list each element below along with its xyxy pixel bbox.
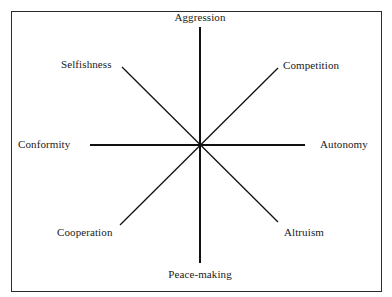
axis-label-selfishness: Selfishness [61, 58, 112, 71]
axis-label-conformity: Conformity [18, 138, 70, 151]
axis-label-competition: Competition [283, 59, 339, 72]
axis-line-competition-cooperation [120, 68, 278, 225]
axis-label-cooperation: Cooperation [57, 226, 112, 239]
diagram-canvas: Aggression Competition Autonomy Altruism… [0, 0, 392, 297]
axis-label-aggression: Aggression [174, 11, 225, 24]
axis-label-peace-making: Peace-making [168, 268, 232, 281]
axis-label-autonomy: Autonomy [320, 138, 368, 151]
axis-label-altruism: Altruism [284, 226, 324, 239]
